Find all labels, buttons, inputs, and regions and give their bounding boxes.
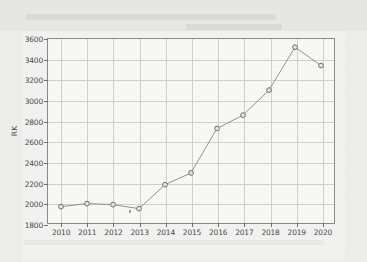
data-point-marker <box>189 171 194 176</box>
data-point-marker <box>267 88 272 93</box>
x-axis-tick-label: 2012 <box>104 228 122 237</box>
data-point-marker <box>163 182 168 187</box>
x-axis-tick <box>323 223 324 227</box>
y-axis-tick-label: 2400 <box>25 159 43 168</box>
x-axis-tick-label: 2010 <box>52 228 70 237</box>
y-axis-tick-label: 2800 <box>25 117 43 126</box>
y-axis-tick-label: 2200 <box>25 179 43 188</box>
x-axis-tick-label: 2018 <box>261 228 279 237</box>
chart-screenshot: RK 1800200022002400260028003000320034003… <box>0 0 367 262</box>
y-axis-tick-label: 3600 <box>25 35 43 44</box>
series-line-rk <box>61 47 321 209</box>
x-axis-tick-label: 2019 <box>288 228 306 237</box>
y-axis-tick-label: 2000 <box>25 200 43 209</box>
x-axis-tick <box>271 223 272 227</box>
data-point-marker <box>85 201 90 206</box>
x-axis-tick-label: 2014 <box>157 228 175 237</box>
data-point-marker <box>137 206 142 211</box>
data-point-marker <box>319 63 324 68</box>
x-axis-tick <box>244 223 245 227</box>
data-point-marker <box>59 204 64 209</box>
x-axis-tick-label: 2015 <box>183 228 201 237</box>
x-axis-tick <box>140 223 141 227</box>
x-axis-tick <box>297 223 298 227</box>
y-axis-tick-label: 1800 <box>25 221 43 230</box>
data-series-layer <box>48 39 334 223</box>
x-axis-tick <box>61 223 62 227</box>
x-axis-tick <box>218 223 219 227</box>
line-chart-figure: RK 1800200022002400260028003000320034003… <box>0 0 367 262</box>
y-axis-tick-label: 3000 <box>25 97 43 106</box>
x-axis-tick-label: 2011 <box>78 228 96 237</box>
y-axis-tick-label: 3200 <box>25 76 43 85</box>
data-point-marker <box>241 113 246 118</box>
x-axis-tick-label: 2017 <box>235 228 253 237</box>
x-axis-tick-label: 2013 <box>130 228 148 237</box>
data-point-marker <box>293 45 298 50</box>
x-axis-tick <box>166 223 167 227</box>
plot-area: 1800200022002400260028003000320034003600… <box>47 38 335 224</box>
y-axis-title: RK <box>10 126 19 137</box>
y-axis-tick <box>44 225 48 226</box>
data-point-marker <box>215 126 220 131</box>
x-axis-tick-label: 2016 <box>209 228 227 237</box>
y-axis-tick-label: 2600 <box>25 138 43 147</box>
x-axis-tick <box>192 223 193 227</box>
x-axis-tick <box>87 223 88 227</box>
y-axis-tick-label: 3400 <box>25 55 43 64</box>
x-axis-tick <box>113 223 114 227</box>
data-point-marker <box>111 202 116 207</box>
x-axis-tick-label: 2020 <box>314 228 332 237</box>
